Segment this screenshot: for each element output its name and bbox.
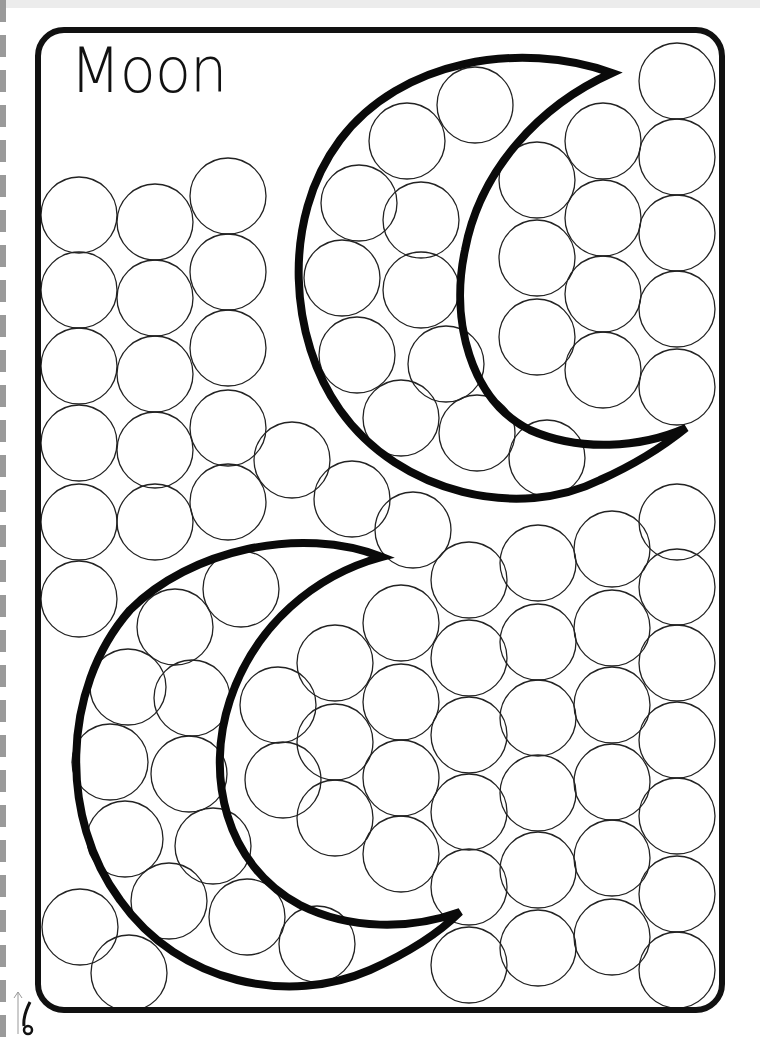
dot-circle[interactable] <box>500 604 576 680</box>
worksheet: Moon <box>0 0 760 1037</box>
dot-circle[interactable] <box>499 299 575 375</box>
dot-circle[interactable] <box>41 484 117 560</box>
dot-circle[interactable] <box>500 680 576 756</box>
dot-circle[interactable] <box>117 412 193 488</box>
dot-circle[interactable] <box>297 625 373 701</box>
dot-circle[interactable] <box>117 484 193 560</box>
dot-circle[interactable] <box>190 234 266 310</box>
dot-circle[interactable] <box>565 256 641 332</box>
dot-circle[interactable] <box>639 195 715 271</box>
dot-circle[interactable] <box>190 310 266 386</box>
dot-circle[interactable] <box>639 625 715 701</box>
dot-circle[interactable] <box>137 589 213 665</box>
worksheet-title: Moon <box>70 40 226 102</box>
dot-circle[interactable] <box>254 422 330 498</box>
dot-circle[interactable] <box>240 667 316 743</box>
dot-circle[interactable] <box>117 184 193 260</box>
dot-circle[interactable] <box>574 820 650 896</box>
dot-circle[interactable] <box>574 744 650 820</box>
dot-circle[interactable] <box>565 180 641 256</box>
dot-circle[interactable] <box>639 778 715 854</box>
dot-circle[interactable] <box>639 702 715 778</box>
dot-circle[interactable] <box>499 220 575 296</box>
dot-circle[interactable] <box>574 899 650 975</box>
dot-circle[interactable] <box>190 464 266 540</box>
dot-circle[interactable] <box>154 660 230 736</box>
dot-circle[interactable] <box>41 561 117 637</box>
dot-circle[interactable] <box>363 585 439 661</box>
dot-circle[interactable] <box>565 103 641 179</box>
worksheet-artwork <box>0 0 760 1037</box>
dot-circle[interactable] <box>117 260 193 336</box>
dot-circle[interactable] <box>151 736 227 812</box>
dot-circle[interactable] <box>363 740 439 816</box>
upper-moon-icon <box>299 58 686 499</box>
dot-circle[interactable] <box>41 252 117 328</box>
dot-circle[interactable] <box>297 780 373 856</box>
dot-circle[interactable] <box>431 697 507 773</box>
dot-circle[interactable] <box>41 405 117 481</box>
dot-circle[interactable] <box>509 420 585 496</box>
dot-circle[interactable] <box>42 889 118 965</box>
dot-circle[interactable] <box>639 349 715 425</box>
dot-circle[interactable] <box>314 461 390 537</box>
dot-circle[interactable] <box>297 704 373 780</box>
dot-circle[interactable] <box>190 158 266 234</box>
dot-circle[interactable] <box>639 119 715 195</box>
dot-circle[interactable] <box>431 542 507 618</box>
dot-circle[interactable] <box>41 328 117 404</box>
lower-moon-icon <box>76 543 460 986</box>
dot-circle[interactable] <box>91 935 167 1011</box>
dot-circle[interactable] <box>639 43 715 119</box>
dot-circle[interactable] <box>41 177 117 253</box>
dot-circle[interactable] <box>500 525 576 601</box>
moon-shapes <box>76 58 686 987</box>
dot-circle[interactable] <box>319 317 395 393</box>
dot-circle[interactable] <box>383 182 459 258</box>
dot-circle[interactable] <box>431 927 507 1003</box>
dot-circle[interactable] <box>574 667 650 743</box>
dot-circle[interactable] <box>369 103 445 179</box>
dot-circle[interactable] <box>500 910 576 986</box>
dot-circle[interactable] <box>363 664 439 740</box>
dot-circle[interactable] <box>363 816 439 892</box>
dot-circle[interactable] <box>117 336 193 412</box>
dot-circle[interactable] <box>245 742 321 818</box>
dot-circle[interactable] <box>72 724 148 800</box>
scissors-icon <box>10 990 40 1036</box>
dot-circle[interactable] <box>639 932 715 1008</box>
page-frame <box>38 30 722 1010</box>
dot-circle[interactable] <box>639 856 715 932</box>
dot-circle[interactable] <box>500 832 576 908</box>
dot-circle[interactable] <box>574 590 650 666</box>
dot-circle[interactable] <box>437 67 513 143</box>
dot-circle[interactable] <box>431 774 507 850</box>
dot-circle[interactable] <box>321 165 397 241</box>
dot-circle[interactable] <box>565 332 641 408</box>
dot-circle[interactable] <box>639 271 715 347</box>
dot-circle[interactable] <box>431 620 507 696</box>
dot-circle[interactable] <box>304 240 380 316</box>
dot-circle[interactable] <box>383 252 459 328</box>
dot-circles <box>41 43 715 1011</box>
dot-circle[interactable] <box>500 755 576 831</box>
